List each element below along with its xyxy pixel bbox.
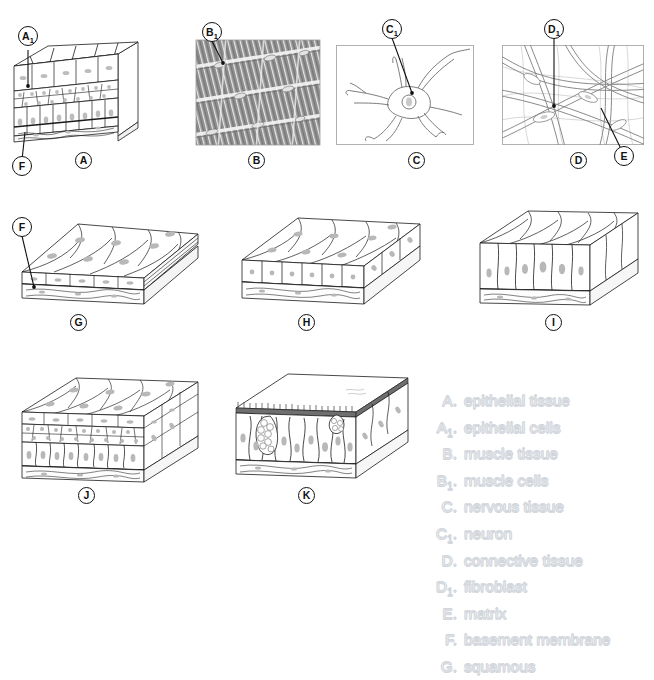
panel-A-epithelial-tissue bbox=[10, 36, 142, 144]
panel-G-drawing bbox=[8, 212, 208, 308]
panel-D-drawing bbox=[502, 45, 644, 145]
legend-key: E. bbox=[424, 605, 464, 623]
panel-caption-G: G bbox=[70, 314, 87, 331]
panel-B-muscle-tissue bbox=[196, 40, 320, 145]
panel-B-drawing bbox=[196, 40, 320, 145]
legend-key: D1. bbox=[424, 578, 464, 598]
legend-item: B1. muscle cells bbox=[424, 472, 654, 499]
legend-key: A1. bbox=[424, 419, 464, 439]
legend-item: B. muscle tissue bbox=[424, 445, 654, 472]
panel-caption-J: J bbox=[78, 487, 95, 504]
callout-D1: D1 bbox=[544, 19, 564, 39]
legend: A. epithelial tissue A1. epithelial cell… bbox=[424, 392, 654, 680]
legend-term: connective tissue bbox=[464, 552, 583, 570]
panel-D-connective-tissue bbox=[502, 45, 644, 145]
panel-H-cuboidal bbox=[232, 210, 432, 310]
callout-F-panel-G: F bbox=[12, 217, 32, 237]
panel-K-drawing bbox=[228, 368, 424, 484]
panel-G-squamous bbox=[8, 212, 208, 308]
legend-item: D. connective tissue bbox=[424, 552, 654, 579]
legend-item: F. basement membrane bbox=[424, 631, 654, 658]
legend-key: G. bbox=[424, 658, 464, 676]
panel-J-stratified bbox=[14, 372, 214, 484]
callout-C1: C1 bbox=[382, 19, 402, 39]
panel-C-drawing bbox=[336, 45, 474, 145]
callout-A1: A1 bbox=[18, 26, 38, 46]
panel-caption-C: C bbox=[408, 152, 425, 169]
legend-term: matrix bbox=[464, 605, 506, 623]
panel-H-drawing bbox=[232, 210, 432, 310]
legend-term: neuron bbox=[464, 525, 512, 543]
legend-term: nervous tissue bbox=[464, 498, 564, 516]
panel-caption-A: A bbox=[75, 152, 92, 169]
legend-item: A. epithelial tissue bbox=[424, 392, 654, 419]
legend-item: E. matrix bbox=[424, 605, 654, 632]
legend-key: C. bbox=[424, 498, 464, 516]
callout-B1: B1 bbox=[202, 22, 222, 42]
clipped-top-text bbox=[300, 0, 654, 11]
legend-item: C. nervous tissue bbox=[424, 498, 654, 525]
legend-item: G. squamous bbox=[424, 658, 654, 680]
panel-caption-K: K bbox=[298, 487, 315, 504]
panel-K-pseudostratified-ciliated bbox=[228, 368, 424, 484]
legend-key: B. bbox=[424, 445, 464, 463]
panel-I-columnar bbox=[474, 205, 650, 313]
panel-caption-I: I bbox=[545, 314, 562, 331]
legend-key: B1. bbox=[424, 472, 464, 492]
legend-term: muscle tissue bbox=[464, 445, 558, 463]
legend-term: epithelial tissue bbox=[464, 392, 570, 410]
legend-item: C1. neuron bbox=[424, 525, 654, 552]
legend-item: A1. epithelial cells bbox=[424, 419, 654, 446]
panel-A-drawing bbox=[10, 36, 142, 144]
legend-term: fibroblast bbox=[464, 578, 527, 596]
panel-caption-D: D bbox=[570, 152, 587, 169]
legend-term: squamous bbox=[464, 658, 536, 676]
panel-caption-B: B bbox=[248, 152, 265, 169]
legend-term: basement membrane bbox=[464, 631, 610, 649]
legend-key: C1. bbox=[424, 525, 464, 545]
callout-F-panel-A: F bbox=[12, 156, 32, 176]
legend-key: A. bbox=[424, 392, 464, 410]
panel-I-drawing bbox=[474, 205, 650, 313]
legend-key: F. bbox=[424, 631, 464, 649]
legend-item: D1. fibroblast bbox=[424, 578, 654, 605]
panel-J-drawing bbox=[14, 372, 214, 484]
panel-caption-H: H bbox=[298, 314, 315, 331]
legend-term: epithelial cells bbox=[464, 419, 561, 437]
legend-term: muscle cells bbox=[464, 472, 548, 490]
legend-key: D. bbox=[424, 552, 464, 570]
panel-C-nervous-tissue bbox=[336, 45, 474, 145]
callout-E: E bbox=[614, 146, 634, 166]
